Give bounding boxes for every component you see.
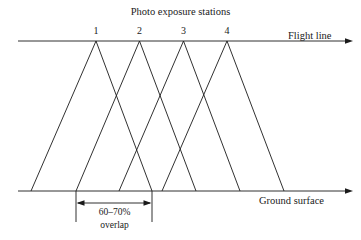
ground-surface-label: Ground surface [259, 196, 324, 207]
overlap-word-label: overlap [76, 221, 153, 231]
station-label-4: 4 [217, 26, 237, 36]
overlap-arrowhead-right [144, 200, 152, 205]
overlap-arrowhead-left [77, 200, 85, 205]
station-label-2: 2 [130, 26, 150, 36]
overlap-percent-label: 60–70% [76, 208, 153, 218]
photogrammetry-overlap-diagram: Photo exposure stations 1 2 3 4 Flight l… [0, 0, 361, 240]
exposure-cone-1 [31, 41, 152, 191]
ground-surface-arrowhead [345, 188, 353, 194]
page-title: Photo exposure stations [0, 7, 361, 18]
flight-line-label: Flight line [288, 31, 331, 42]
station-label-1: 1 [86, 26, 106, 36]
exposure-cone-4 [162, 41, 284, 191]
exposure-cone-2 [76, 41, 196, 191]
flight-line-arrowhead [345, 38, 353, 44]
exposure-cone-3 [119, 41, 240, 191]
station-label-3: 3 [174, 26, 194, 36]
